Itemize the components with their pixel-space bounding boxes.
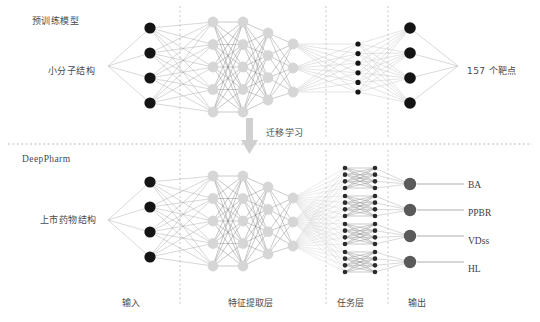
transfer-learning-label: 迁移学习 [266, 126, 304, 139]
axis-label-output: 输出 [408, 296, 426, 309]
top-input-label: 小分子结构 [48, 64, 95, 77]
axis-label-task-layer: 任务层 [337, 296, 364, 309]
axis-label-input: 输入 [122, 296, 140, 309]
output-label-hl: HL [468, 264, 481, 274]
bottom-input-label: 上市药物结构 [40, 213, 96, 226]
pretrained-model-title: 预训练模型 [32, 14, 79, 27]
network-diagram [0, 0, 540, 322]
top-output-label: 157 个靶点 [467, 64, 517, 77]
output-label-ppbr: PPBR [468, 208, 491, 218]
deeppharm-title: DeepPharm [22, 154, 70, 164]
output-label-ba: BA [468, 180, 481, 190]
axis-label-feature-extraction: 特征提取层 [228, 296, 273, 309]
figure-canvas: 预训练模型 小分子结构 157 个靶点 迁移学习 DeepPharm 上市药物结… [0, 0, 540, 322]
output-label-vdss: VDss [468, 236, 489, 246]
